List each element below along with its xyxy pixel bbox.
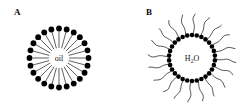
surfactant-tail: [208, 25, 221, 38]
surfactant-tail: [64, 35, 72, 49]
surfactant-tail: [68, 45, 82, 53]
surfactant-head: [170, 67, 175, 72]
surfactant-head: [77, 34, 83, 40]
surfactant-head: [213, 53, 218, 58]
reverse-micelle-diagram: H2O: [124, 0, 248, 104]
surfactant-head: [199, 77, 204, 82]
surfactant-tail: [52, 68, 56, 83]
surfactant-tail: [64, 67, 72, 81]
surfactant-head: [203, 37, 208, 42]
panel-b: B H2O: [124, 0, 248, 104]
surfactant-tail: [164, 77, 176, 91]
surfactant-head: [64, 27, 70, 33]
surfactant-head: [194, 78, 199, 83]
surfactant-head: [35, 76, 41, 82]
surfactant-head: [213, 58, 218, 63]
surfactant-head: [82, 70, 88, 76]
surfactant-tail: [159, 29, 172, 42]
surfactant-head: [194, 33, 199, 38]
surfactant-head: [71, 81, 77, 87]
surfactant-head: [190, 33, 195, 38]
surfactant-tail: [69, 51, 84, 55]
surfactant-head: [203, 74, 208, 79]
surfactant-head: [173, 71, 178, 76]
surfactant-head: [190, 79, 195, 84]
surfactant-tail: [36, 63, 50, 71]
surfactant-head: [48, 27, 54, 33]
surfactant-tail: [66, 65, 77, 76]
surfactant-tail: [217, 59, 236, 62]
surfactant-tail: [174, 81, 183, 98]
surfactant-tail: [215, 67, 232, 74]
surfactant-head: [207, 40, 212, 45]
surfactant-head: [31, 40, 37, 46]
surfactant-head: [180, 77, 185, 82]
normal-micelle-diagram: oil: [0, 0, 124, 104]
surfactant-head: [48, 84, 54, 90]
surfactant-head: [71, 30, 77, 36]
surfactant-head: [167, 53, 172, 58]
surfactant-head: [212, 63, 217, 68]
surfactant-head: [173, 40, 178, 45]
surfactant-tail: [34, 61, 49, 65]
surfactant-head: [185, 33, 190, 38]
surfactant-tail: [169, 21, 179, 37]
surfactant-head: [212, 49, 217, 54]
surfactant-tail: [46, 67, 54, 81]
surfactant-tail: [213, 35, 229, 45]
surfactant-tail: [69, 61, 84, 65]
surfactant-head: [28, 63, 34, 69]
surfactant-head: [85, 47, 91, 53]
surfactant-tail: [34, 51, 49, 55]
surfactant-head: [56, 26, 62, 32]
surfactant-head: [82, 40, 88, 46]
surfactant-tail: [66, 39, 77, 50]
micelle-figure: A oil B H2O: [0, 0, 248, 104]
surfactant-head: [41, 81, 47, 87]
surfactant-head: [31, 70, 37, 76]
surfactant-tail: [149, 64, 168, 68]
surfactant-head: [199, 35, 204, 40]
surfactant-tail: [46, 35, 54, 49]
surfactant-head: [86, 55, 92, 61]
surfactant-head: [176, 37, 181, 42]
surfactant-head: [210, 44, 215, 49]
surfactant-head: [168, 49, 173, 54]
surfactant-head: [207, 71, 212, 76]
surfactant-head: [210, 67, 215, 72]
surfactant-head: [56, 85, 62, 91]
surfactant-tail: [40, 65, 51, 76]
surfactant-tail: [40, 39, 51, 50]
surfactant-tail: [62, 33, 66, 48]
surfactant-head: [85, 63, 91, 69]
surfactant-tail: [148, 55, 167, 57]
surfactant-tail: [62, 68, 66, 83]
surfactant-head: [28, 47, 34, 53]
surfactant-tail: [52, 33, 56, 48]
surfactant-tail: [36, 45, 50, 53]
surfactant-tail: [188, 83, 191, 102]
surfactant-tail: [68, 63, 82, 71]
surfactant-head: [168, 63, 173, 68]
surfactant-tail: [201, 18, 210, 35]
surfactant-tail: [206, 79, 215, 96]
surfactant-tail: [216, 47, 235, 51]
panel-a: A oil: [0, 0, 124, 104]
core-label-oil: oil: [55, 54, 64, 63]
surfactant-tail: [181, 15, 185, 34]
surfactant-tail: [152, 40, 169, 49]
surfactant-head: [167, 58, 172, 63]
surfactant-head: [35, 34, 41, 40]
surfactant-tail: [211, 74, 225, 87]
surfactant-head: [77, 76, 83, 82]
surfactant-head: [170, 44, 175, 49]
surfactant-tail: [193, 14, 195, 33]
surfactant-head: [41, 30, 47, 36]
surfactant-head: [185, 78, 190, 83]
surfactant-head: [180, 35, 185, 40]
surfactant-tail: [198, 82, 203, 100]
surfactant-head: [176, 74, 181, 79]
surfactant-head: [64, 84, 70, 90]
surfactant-head: [27, 55, 33, 61]
core-label-water: H2O: [185, 54, 200, 64]
